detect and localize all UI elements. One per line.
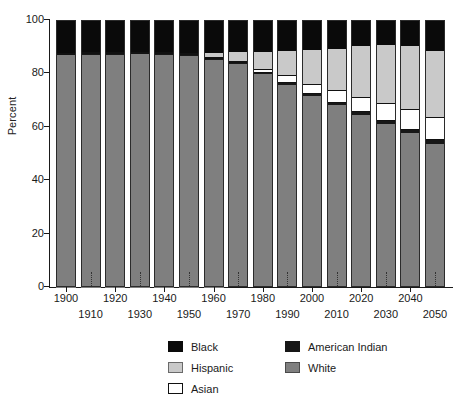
x-tick-label-2040: 2040 [390,292,430,304]
y-tick-60: 60 [14,121,44,133]
bar-1930[interactable] [130,20,150,287]
bar-segment-asian [376,103,396,121]
x-tick-label-1930: 1930 [120,308,160,320]
bar-segment-hispanic [277,51,297,75]
legend-label: Black [191,341,218,353]
y-tick-label: 80 [18,67,44,78]
bar-segment-black [277,20,297,51]
x-tick-label-2050: 2050 [415,308,455,320]
bar-segment-asian [302,84,322,94]
y-tick-label: 0 [18,281,44,292]
bar-segment-black [130,20,150,52]
bar-1910[interactable] [81,20,101,287]
bar-segment-hispanic [228,52,248,61]
bar-segment-white [277,85,297,287]
bar-segment-black [228,20,248,52]
bar-2030[interactable] [376,20,396,287]
x-tick-label-1980: 1980 [243,292,283,304]
bar-segment-white [302,96,322,287]
x-tick-dotted-1930 [140,272,142,286]
bar-segment-white [253,74,273,287]
bar-segment-black [425,20,445,51]
x-tick-dotted-2010 [337,272,339,286]
legend-label: Hispanic [191,362,233,374]
bar-segment-black [56,20,76,53]
y-axis-ticks: 020406080100 [14,0,44,400]
legend-swatch-icon [285,362,300,373]
bar-segment-hispanic [253,52,273,69]
bar-segment-black [376,20,396,45]
bar-1960[interactable] [204,20,224,287]
bar-segment-white [228,64,248,287]
legend-swatch-icon [168,362,183,373]
bar-1950[interactable] [179,20,199,287]
bar-segment-white [154,55,174,288]
bar-segment-white [204,60,224,288]
legend-swatch-icon [285,341,300,352]
bar-segment-hispanic [302,50,322,84]
legend-column-right: American IndianWhite [285,336,388,378]
y-tick-20: 20 [14,228,44,240]
x-tick-dotted-1970 [238,272,240,286]
y-tick-label: 100 [18,14,44,25]
bar-segment-black [81,20,101,52]
x-tick-label-1910: 1910 [71,308,111,320]
x-tick-label-1990: 1990 [267,308,307,320]
bar-segment-black [351,20,371,46]
x-tick-dotted-2030 [386,272,388,286]
legend-item-white[interactable]: White [285,357,388,378]
legend-column-left: BlackHispanicAsian [168,336,233,399]
x-tick-label-2030: 2030 [366,308,406,320]
bar-1940[interactable] [154,20,174,287]
bar-segment-asian [327,90,347,103]
legend-swatch-icon [168,383,183,394]
bar-segment-white [179,56,199,288]
x-tick-label-2020: 2020 [341,292,381,304]
bar-segment-white [425,144,445,287]
bar-1990[interactable] [277,20,297,287]
legend-item-hispanic[interactable]: Hispanic [168,357,233,378]
bar-1980[interactable] [253,20,273,287]
bar-segment-hispanic [400,46,420,110]
x-tick-label-1960: 1960 [194,292,234,304]
bar-segment-white [400,133,420,287]
bar-segment-black [327,20,347,49]
legend-item-black[interactable]: Black [168,336,233,357]
bar-segment-white [327,105,347,287]
x-tick-label-1950: 1950 [169,308,209,320]
y-tick-80: 80 [14,67,44,79]
y-tick-100: 100 [14,14,44,26]
bar-segment-hispanic [376,45,396,103]
bar-segment-white [351,115,371,287]
bar-2040[interactable] [400,20,420,287]
legend-item-american-indian[interactable]: American Indian [285,336,388,357]
x-tick-dotted-1990 [287,272,289,286]
x-tick-label-2000: 2000 [292,292,332,304]
bar-segment-asian [400,109,420,130]
x-tick-label-2010: 2010 [317,308,357,320]
y-tick-0: 0 [14,281,44,293]
bar-1900[interactable] [56,20,76,287]
y-tick-40: 40 [14,174,44,186]
x-tick-label-1940: 1940 [144,292,184,304]
bar-segment-white [56,55,76,288]
bar-segment-hispanic [425,51,445,116]
legend-label: American Indian [308,341,388,353]
x-tick-dotted-1950 [189,272,191,286]
bar-2020[interactable] [351,20,371,287]
stacked-bar-chart: Percent 020406080100 1900191019201930194… [0,0,461,400]
bar-segment-white [105,55,125,289]
bar-1920[interactable] [105,20,125,287]
legend-item-asian[interactable]: Asian [168,378,233,399]
bar-2050[interactable] [425,20,445,287]
x-tick-dotted-2050 [435,272,437,286]
bar-segment-hispanic [327,49,347,90]
x-tick-label-1920: 1920 [95,292,135,304]
bar-1970[interactable] [228,20,248,287]
y-tick-label: 60 [18,121,44,132]
bar-2010[interactable] [327,20,347,287]
x-tick-dotted-1910 [91,272,93,286]
legend-label: Asian [191,383,219,395]
bar-segment-white [81,55,101,288]
bar-2000[interactable] [302,20,322,287]
